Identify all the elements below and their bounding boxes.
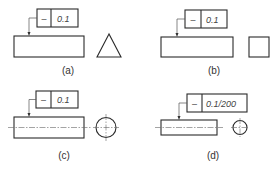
leader-arrow-a bbox=[28, 32, 31, 36]
caption-a: (a) bbox=[62, 65, 74, 76]
square-side-view bbox=[249, 37, 269, 57]
leader-line-a bbox=[29, 18, 37, 34]
figure-d: – 0.1/200 (d) bbox=[155, 94, 249, 161]
caption-b: (b) bbox=[208, 65, 220, 76]
leader-line-d bbox=[179, 103, 187, 118]
leader-line-b bbox=[177, 19, 185, 35]
triangle-side-view bbox=[97, 34, 121, 57]
caption-d: (d) bbox=[207, 150, 219, 161]
tolerance-value-a: 0.1 bbox=[57, 14, 70, 24]
figure-b: – 0.1 (b) bbox=[161, 10, 269, 76]
straightness-symbol-d: – bbox=[192, 99, 197, 109]
feature-control-frame-a: – 0.1 bbox=[37, 9, 78, 27]
tolerance-value-c: 0.1 bbox=[57, 95, 70, 105]
caption-c: (c) bbox=[58, 150, 70, 161]
feature-control-frame-c: – 0.1 bbox=[36, 91, 78, 108]
straightness-symbol-c: – bbox=[41, 95, 46, 105]
figure-a: – 0.1 (a) bbox=[14, 9, 121, 76]
straightness-symbol-a: – bbox=[41, 14, 46, 24]
front-view-rect-a bbox=[14, 36, 84, 57]
tolerance-value-d: 0.1/200 bbox=[206, 99, 236, 109]
leader-line-c bbox=[29, 100, 36, 116]
tolerance-value-b: 0.1 bbox=[206, 15, 219, 25]
feature-control-frame-d: – 0.1/200 bbox=[187, 94, 247, 112]
figure-c: – 0.1 (c) bbox=[8, 91, 119, 161]
leader-arrow-b bbox=[176, 33, 179, 37]
front-view-rect-b bbox=[161, 37, 233, 57]
feature-control-frame-b: – 0.1 bbox=[185, 10, 227, 28]
leader-arrow-c bbox=[28, 113, 31, 117]
straightness-symbol-b: – bbox=[190, 15, 195, 25]
straightness-tolerance-diagram: – 0.1 (a) – 0.1 (b) – 0.1 bbox=[0, 0, 278, 169]
leader-arrow-d bbox=[178, 116, 181, 120]
